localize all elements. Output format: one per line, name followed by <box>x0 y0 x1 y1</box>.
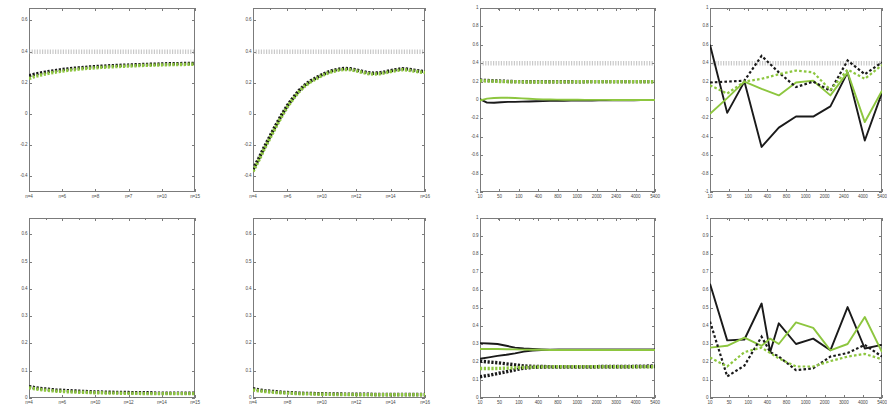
panel-r1c3-ytick-label: 0.4 <box>473 61 479 66</box>
panel-r1c3-xtick-label: 2400 <box>611 195 621 200</box>
panel-r2c2-xtick-mark <box>425 395 426 398</box>
panel-r1c4-ytick-label: -0.2 <box>701 116 708 121</box>
panel-r2c1-plot-area <box>29 218 195 398</box>
panel-r1c4: 10.80.60.40.20-0.2-0.4-0.6-0.8-110501004… <box>710 8 882 192</box>
panel-r2c3-ytick-label: 0.6 <box>473 288 479 293</box>
panel-r2c2-xtick-label: n=16 <box>420 401 430 406</box>
panel-r2c4-ytick-label: 0.8 <box>703 252 709 257</box>
panel-r2c4-xtick-mark <box>882 395 883 398</box>
panel-r2c2-ytick-label: 0.3 <box>246 314 252 319</box>
panel-r2c1-xtick-mark <box>195 395 196 398</box>
panel-r1c2-ytick-label: -0.4 <box>244 174 251 179</box>
panel-r2c4-xtick-label: 100 <box>745 401 752 406</box>
panel-r1c2-xtick-label: n=10 <box>317 195 327 200</box>
panel-r1c3-xtick-label: 4000 <box>631 195 641 200</box>
panel-r2c2: 0.60.50.40.30.20.10n=4n=8n=10n=12n=14n=1… <box>253 218 425 398</box>
panel-r2c2-plot-area <box>253 218 425 398</box>
panel-r2c2-ytick-label: 0.1 <box>246 368 252 373</box>
panel-r1c4-xtick-label: 800 <box>783 195 790 200</box>
panel-r2c2-ytick-label: 0.6 <box>246 232 252 237</box>
panel-r2c4-xtick-label: 3000 <box>839 401 849 406</box>
panel-r1c3-xtick-label: 5400 <box>650 195 660 200</box>
panel-r1c3-xtick-label: 1000 <box>572 195 582 200</box>
panel-r2c1-ytick-label: 0.1 <box>22 368 28 373</box>
panel-r1c3-xtick-mark-top <box>655 8 656 11</box>
panel-r1c3-xtick-label: 400 <box>535 195 542 200</box>
panel-r2c2-ytick-label: 0.5 <box>246 259 252 264</box>
panel-r1c1-plot-area <box>29 8 195 192</box>
panel-r2c1-xtick-label: n=10 <box>91 401 101 406</box>
panel-r1c1-series-green-dotted <box>29 64 195 78</box>
panel-r2c3-ytick-label: 0.2 <box>473 360 479 365</box>
panel-r2c4-ytick-label: 0.4 <box>703 324 709 329</box>
panel-r1c3-xtick-mark <box>655 189 656 192</box>
panel-r1c2: 0.60.40.20-0.2-0.4n=4n=6n=10n=12n=14n=16 <box>253 8 425 192</box>
panel-r2c4: 10.90.80.70.60.50.40.30.20.1010501004008… <box>710 218 882 398</box>
panel-r1c3-ytick-label: -0.6 <box>471 153 478 158</box>
panel-r2c2-xtick-mark-top <box>425 218 426 221</box>
panel-r1c4-xtick-label: 400 <box>764 195 771 200</box>
panel-r1c3-ytick-label: 0.8 <box>473 24 479 29</box>
panel-r1c1-xtick-mark <box>195 189 196 192</box>
panel-r2c3-xtick-label: 4000 <box>631 401 641 406</box>
panel-r2c3-xtick-label: 400 <box>535 401 542 406</box>
panel-r2c1: 0.60.50.40.30.20.10n=4n=6n=10n=12n=14n=1… <box>29 218 195 398</box>
panel-r2c4-ytick-label: 0.3 <box>703 342 709 347</box>
panel-r1c4-xtick-label: 2000 <box>820 195 830 200</box>
panel-r2c3-ytick-label: 0.3 <box>473 342 479 347</box>
panel-r2c1-series-green-dotted <box>29 388 195 394</box>
panel-r2c4-ytick-label: 0.2 <box>703 360 709 365</box>
panel-r1c1-xtick-label: n=4 <box>25 195 32 200</box>
panel-r1c1-ytick-label: 0.2 <box>22 81 28 86</box>
panel-r1c1: 0.60.40.20-0.2-0.4n=4n=6n=8n=7n=10n=15 <box>29 8 195 192</box>
panel-r1c2-xtick-label: n=12 <box>351 195 361 200</box>
panel-r2c4-ytick-label: 0.5 <box>703 306 709 311</box>
panel-r1c3-xtick-label: 50 <box>497 195 502 200</box>
panel-r1c2-ytick-label: 0.2 <box>246 81 252 86</box>
panel-r2c2-xtick-label: n=12 <box>351 401 361 406</box>
panel-r1c4-ytick-label: 1 <box>706 6 708 11</box>
panel-r1c2-xtick-label: n=4 <box>249 195 256 200</box>
panel-r2c4-ytick-label: 0.9 <box>703 234 709 239</box>
panel-r2c4-ytick-label: 0.7 <box>703 270 709 275</box>
panel-r2c3-xtick-label: 1000 <box>572 401 582 406</box>
panel-r1c3-xtick-label: 100 <box>515 195 522 200</box>
panel-r2c2-ytick-label: 0.4 <box>246 287 252 292</box>
panel-r2c3-xtick-label: 100 <box>515 401 522 406</box>
panel-r2c3-ytick-label: 0.7 <box>473 270 479 275</box>
panel-r2c4-plot-area <box>710 218 882 398</box>
panel-r2c2-series-green-dotted <box>253 390 425 395</box>
panel-r1c2-xtick-mark-top <box>425 8 426 11</box>
panel-r2c4-xtick-mark-top <box>882 218 883 221</box>
panel-r1c4-xtick-label: 4000 <box>858 195 868 200</box>
panel-r1c1-ytick-label: 0.6 <box>22 18 28 23</box>
panel-r1c3-series-green-dotted <box>480 81 655 82</box>
panel-r2c3-ytick-label: 0.4 <box>473 324 479 329</box>
panel-r1c4-ytick-label: 0.2 <box>703 79 709 84</box>
panel-r1c4-xtick-label: 1000 <box>801 195 811 200</box>
panel-r2c3-ytick-label: 0.5 <box>473 306 479 311</box>
panel-r2c1-xtick-label: n=6 <box>59 401 66 406</box>
panel-r2c4-ytick-label: 0.1 <box>703 378 709 383</box>
panel-r2c3-ytick-label: 0.9 <box>473 234 479 239</box>
panel-r1c4-ytick-label: 0.6 <box>703 43 709 48</box>
panel-r2c1-ytick-label: 0.4 <box>22 287 28 292</box>
panel-r2c3-xtick-label: 3000 <box>611 401 621 406</box>
panel-r2c1-xtick-label: n=14 <box>157 401 167 406</box>
panel-r2c3: 10.90.80.70.60.50.40.30.20.1010501004008… <box>480 218 655 398</box>
panel-r1c4-xtick-label: 50 <box>727 195 732 200</box>
panel-r2c2-xtick-label: n=8 <box>284 401 291 406</box>
panel-r2c4-xtick-label: 10 <box>708 401 713 406</box>
panel-r2c3-xtick-label: 2000 <box>592 401 602 406</box>
panel-r2c1-ytick-label: 0.6 <box>22 232 28 237</box>
panel-r2c1-ytick-label: 0.5 <box>22 259 28 264</box>
panel-r2c4-xtick-label: 800 <box>783 401 790 406</box>
panel-r1c2-series-green-dotted <box>253 69 425 171</box>
panel-r2c4-ytick-label: 1 <box>706 216 708 221</box>
panel-r2c4-xtick-label: 4000 <box>858 401 868 406</box>
panel-r2c3-xtick-mark <box>655 395 656 398</box>
panel-r2c4-xtick-label: 2000 <box>820 401 830 406</box>
panel-r2c3-series-black-solid-lower <box>480 350 655 359</box>
panel-r1c4-plot-area <box>710 8 882 192</box>
